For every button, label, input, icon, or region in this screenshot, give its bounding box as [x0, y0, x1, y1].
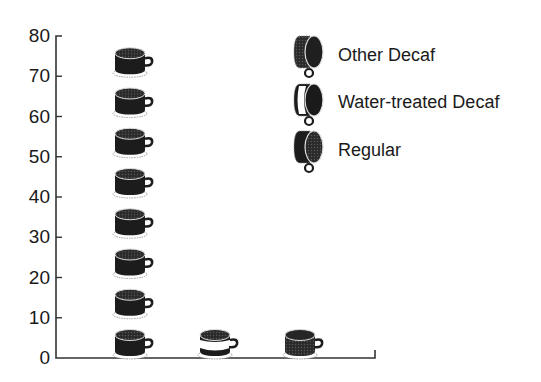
y-tick-label: 80	[10, 26, 50, 45]
y-tick-label: 50	[10, 147, 50, 166]
y-tick-label: 20	[10, 268, 50, 287]
legend-item: Water-treated Decaf	[292, 80, 499, 126]
coffee-cup-icon	[113, 209, 152, 239]
coffee-cup-icon	[113, 289, 152, 319]
y-tick-label: 70	[10, 66, 50, 85]
coffee-cup-icon	[292, 30, 332, 80]
pictogram-chart: 01020304050607080 Other DecafWater-treat…	[0, 0, 541, 382]
legend-label: Water-treated Decaf	[338, 92, 499, 113]
y-tick-label: 40	[10, 187, 50, 206]
y-tick-label: 0	[10, 348, 50, 367]
y-tick-label: 10	[10, 308, 50, 327]
coffee-cup-icon	[113, 169, 152, 199]
legend-item: Other Decaf	[292, 32, 435, 78]
coffee-cup-icon	[292, 78, 332, 128]
legend-label: Other Decaf	[338, 45, 435, 66]
y-tick-label: 30	[10, 227, 50, 246]
coffee-cup-icon	[292, 125, 332, 175]
legend-label: Regular	[338, 140, 401, 161]
coffee-cup-icon	[283, 330, 322, 360]
cup-columns	[113, 48, 322, 359]
plot-area	[0, 0, 541, 382]
coffee-cup-icon	[113, 88, 152, 118]
legend-item: Regular	[292, 127, 401, 173]
y-tick-label: 60	[10, 107, 50, 126]
coffee-cup-icon	[113, 330, 152, 360]
column-water-treated-decaf	[198, 330, 237, 360]
coffee-cup-icon	[198, 330, 237, 360]
coffee-cup-icon	[113, 249, 152, 279]
column-regular	[113, 48, 152, 359]
column-other-decaf	[283, 330, 322, 360]
coffee-cup-icon	[113, 128, 152, 158]
coffee-cup-icon	[113, 48, 152, 78]
